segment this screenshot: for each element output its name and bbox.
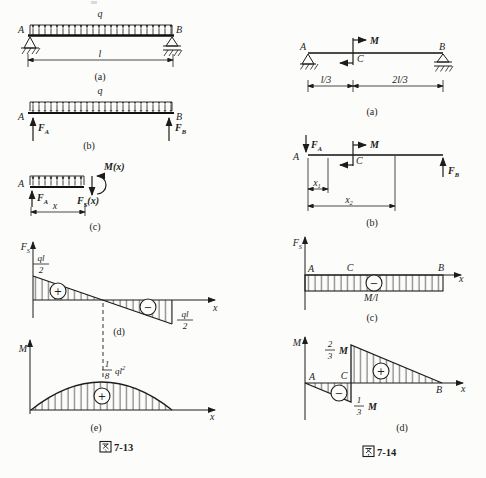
figure-7-13: q A B l (a) q [17,8,218,453]
axis-label-x: x [460,383,466,394]
cjk-char-tu-icon [100,442,111,453]
svg-text:ql: ql [181,309,189,319]
reaction-label-fb: FB [447,165,460,178]
dim-label-x2: x2 [344,194,353,207]
svg-text:−: − [144,302,152,313]
svg-text:M: M [338,345,349,356]
point-label-c: C [356,155,363,166]
moment-arc [97,176,106,194]
coordinate-dimensions: x1 x2 [308,156,395,211]
plus-sign-icon: + [94,388,110,404]
svg-text:3: 3 [356,407,362,417]
svg-text:ql: ql [37,253,45,263]
roller-support-b [434,54,453,72]
axis-label-x: x [458,273,464,284]
svg-text:−: − [335,388,343,399]
end-label-a: A [17,111,25,122]
part-tag-a: (a) [94,71,105,83]
support-label-b: B [439,41,445,52]
distributed-load [30,25,172,35]
value-two-thirds-m: 2 3 M [325,339,349,361]
reaction-label-fa: FA [310,139,323,152]
part-tag-d: (d) [396,422,408,434]
support-label-a: A [299,41,307,52]
fig14-beam-a: A B M C l/3 2l/3 [299,35,453,118]
point-label-b: B [438,262,444,273]
axis-label-x: x [212,302,218,313]
figure-7-14: A B M C l/3 2l/3 [292,35,466,458]
caption-number: 7-13 [114,442,133,453]
reaction-label-fa: FA [36,192,49,205]
span-dimension: l [28,48,173,67]
value-ql-over-2-bottom: ql 2 [177,309,193,331]
value-one-eighth-ql2: 1 8 ql2 [102,359,126,381]
fig13-beam-a: q A B l (a) [17,8,182,83]
axis-label-x: x [209,411,215,422]
plus-sign-icon: + [373,363,389,379]
fig13-shear-diagram: FS x ql 2 ql 2 + − (d) [20,241,218,377]
point-label-a: A [307,263,315,274]
figures-canvas: q A B l (a) q [0,0,486,478]
svg-text:ql2: ql2 [115,364,126,376]
axis-label-fs: FS [20,241,31,254]
svg-text:+: + [377,366,385,377]
roller-support-b [163,37,182,56]
svg-text:8: 8 [105,371,110,381]
fig13-beam-b: q A B FA FB (b) [17,85,187,152]
fig14-beam-b: A FA M C FB x1 x2 (b) [292,135,460,229]
fig13-caption: 7-13 [100,442,133,454]
dim-label-x: x [52,200,58,211]
svg-text:−: − [370,278,378,289]
dim-label-x1: x1 [312,177,321,190]
axis-label-m: M [18,343,28,354]
point-label-c: C [341,370,348,381]
support-label-a: A [17,24,25,35]
distributed-load [30,102,172,112]
support-label-b: B [176,24,182,35]
minus-sign-icon: − [140,299,156,315]
couple-label-m: M [369,139,380,150]
span-dimensions: l/3 2l/3 [308,74,443,92]
minus-sign-icon: − [366,275,382,291]
caption-number: 7-14 [377,447,397,458]
point-label-b: B [436,384,442,395]
svg-text:M: M [367,401,378,412]
dim-label-l3: l/3 [321,74,332,85]
fig13-section-c: A FA FS(x) M(x) x (c) [17,161,125,233]
point-label-a: A [308,371,316,382]
svg-text:2: 2 [328,339,333,349]
end-label-b: B [176,111,182,122]
svg-text:3: 3 [327,351,333,361]
shear-label-fs: FS(x) [76,195,99,208]
svg-text:1: 1 [357,395,362,405]
axis-label-fs: FS [292,237,303,250]
part-tag-b: (b) [83,140,95,152]
fig14-shear-diagram: FS x A C B − M/l (c) [292,237,464,324]
fig13-moment-diagram: M x 1 8 ql2 + (e) [18,340,215,434]
svg-text:2: 2 [39,265,44,275]
axis-label-m: M [292,337,302,348]
couple-label-m: M [369,35,380,46]
svg-text:+: + [54,286,62,297]
pin-support-a [300,54,318,70]
fig14-caption: 7-14 [363,446,397,458]
part-tag-e: (e) [90,422,101,434]
plus-sign-icon: + [50,283,66,299]
pin-support-a [21,37,40,54]
fig14-moment-diagram: M x A C B 2 3 M 1 3 M − [292,337,466,434]
moment-label-mx: M(x) [103,161,125,173]
part-tag-a: (a) [366,106,377,118]
value-ql-over-2-top: ql 2 [33,253,49,275]
dim-label-l: l [99,48,102,59]
part-tag-c: (c) [366,312,377,324]
value-m-over-l: M/l [363,292,378,303]
svg-text:2: 2 [183,321,188,331]
part-tag-c: (c) [89,221,100,233]
distributed-load [30,176,84,186]
point-label-c: C [357,53,364,64]
cjk-char-tu-icon [363,446,374,457]
udl-label-q: q [98,8,103,19]
end-label-a: A [17,178,25,189]
reaction-label-fb: FB [174,122,187,135]
dim-label-2l3: 2l/3 [392,74,408,85]
